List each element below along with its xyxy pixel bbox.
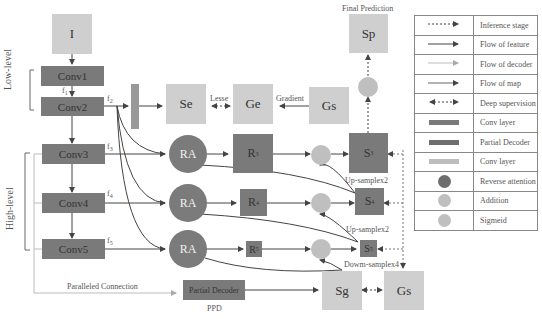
dark-bar-icon xyxy=(429,120,459,125)
gs-block-bottom: Gs xyxy=(384,271,424,310)
conv3-block: Conv3 xyxy=(42,144,105,164)
sigmoid-circle xyxy=(358,77,378,97)
sp-block: Sp xyxy=(349,14,388,53)
light-circle-icon xyxy=(438,214,451,227)
conv2-block: Conv2 xyxy=(41,97,104,116)
paralleled-connection-label: Paralleled Connection xyxy=(67,282,138,291)
gs-block: Gs xyxy=(309,87,349,124)
feature-f3-label: f3 xyxy=(107,142,113,152)
add3-circle xyxy=(311,145,331,165)
s5-block: S5 xyxy=(360,240,377,257)
ra4-circle: RA xyxy=(169,184,207,222)
final-prediction-title: Final Prediction xyxy=(342,4,393,13)
se-block: Se xyxy=(166,84,206,124)
add5-circle xyxy=(311,239,331,259)
upsample-label-1: Up-samplex2 xyxy=(345,176,388,185)
feature-f2-label: f2 xyxy=(107,94,113,104)
edge-conv-bar xyxy=(131,84,139,129)
light-arrow-icon xyxy=(424,59,464,67)
input-image: I xyxy=(52,14,92,54)
low-level-label: Low-level xyxy=(2,49,13,90)
dashed-arrow-icon xyxy=(424,20,464,28)
r5-block: R5 xyxy=(246,241,262,257)
dark-circle-icon xyxy=(438,175,451,188)
downsample-label: Dowm-samplex4 xyxy=(344,260,399,269)
gray-arrow-icon xyxy=(424,79,464,87)
conv5-block: Conv5 xyxy=(42,239,105,259)
light-circle-icon xyxy=(438,194,451,207)
solid-arrow-icon xyxy=(424,40,464,48)
ppd-label: PPD xyxy=(207,304,222,313)
legend: Inference stage Flow of feature Flow of … xyxy=(414,15,538,231)
light-bar-icon xyxy=(429,159,459,164)
r4-block: R4 xyxy=(240,189,267,216)
feature-f4-label: f4 xyxy=(107,189,113,199)
add4-circle xyxy=(311,193,331,213)
partial-decoder-block: Partial Decoder xyxy=(183,280,245,300)
high-level-label: High-level xyxy=(4,187,15,230)
dark-bar-icon xyxy=(429,140,459,145)
conv1-block: Conv1 xyxy=(41,66,104,86)
s4-block: S4 xyxy=(355,188,384,215)
r3-block: R3 xyxy=(233,134,273,173)
ge-block: Ge xyxy=(233,84,273,124)
feature-f5-label: f5 xyxy=(107,236,113,246)
feature-f1-label: f1 xyxy=(62,86,68,96)
ra5-circle: RA xyxy=(169,230,207,268)
s3-block: S3 xyxy=(349,133,388,173)
sg-block: Sg xyxy=(322,271,362,310)
gradient-label: Gradient xyxy=(276,94,304,103)
lesse-label: Lesse xyxy=(210,94,228,103)
upsample-label-2: Up-samplex2 xyxy=(346,225,389,234)
conv4-block: Conv4 xyxy=(42,193,105,213)
ra3-circle: RA xyxy=(169,135,207,173)
double-dashed-arrow-icon xyxy=(424,98,464,106)
